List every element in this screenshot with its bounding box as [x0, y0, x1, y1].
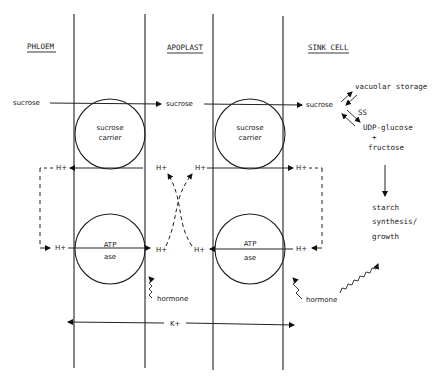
svg-text:ATP: ATP — [244, 240, 257, 248]
svg-text:carrier: carrier — [239, 134, 262, 142]
fructose-label: fructose — [368, 143, 405, 152]
svg-text:sucrose: sucrose — [97, 124, 124, 132]
potassium-transport: K+ — [68, 320, 294, 328]
hormone-signals: hormone hormone — [149, 264, 378, 304]
svg-text:ase: ase — [104, 253, 116, 261]
sucrose-phloem-label: sucrose — [13, 99, 40, 107]
svg-text:H+: H+ — [55, 244, 66, 252]
svg-text:carrier: carrier — [99, 134, 122, 142]
header-sink-cell: SINK CELL — [308, 43, 349, 52]
header-apoplast: APOPLAST — [167, 43, 204, 52]
proton-recycling-arrows — [166, 174, 192, 246]
svg-text:sucrose: sucrose — [237, 124, 264, 132]
sucrose-sink-label: sucrose — [306, 101, 333, 109]
svg-text:H+: H+ — [156, 246, 167, 254]
proton-atpase-level: H+ H+ H+ H+ — [55, 244, 307, 254]
phloem-unloading-diagram: PHLOEM APOPLAST SINK CELL sucrose carrie… — [0, 0, 441, 385]
hormone-right-label: hormone — [306, 296, 337, 304]
atpase-left: ATP ase — [75, 214, 145, 284]
svg-text:H+: H+ — [194, 246, 205, 254]
growth-label: growth — [372, 232, 399, 241]
potassium-label: K+ — [170, 320, 181, 328]
sucrose-carrier-right: sucrose carrier — [215, 99, 285, 169]
svg-text:H+: H+ — [195, 164, 206, 172]
svg-text:H+: H+ — [156, 164, 167, 172]
synthesis-label: synthesis/ — [372, 217, 417, 226]
sink-fate: vacuolar storage SS UDP-glucose + fructo… — [341, 82, 428, 241]
svg-text:H+: H+ — [56, 164, 67, 172]
ss-enzyme-label: SS — [358, 108, 368, 117]
vacuolar-storage-label: vacuolar storage — [355, 82, 428, 91]
starch-label: starch — [372, 203, 399, 212]
membranes — [74, 14, 283, 370]
svg-text:H+: H+ — [296, 164, 307, 172]
svg-text:H+: H+ — [296, 245, 307, 253]
svg-text:ase: ase — [244, 254, 256, 262]
sucrose-apoplast-label: sucrose — [166, 100, 193, 108]
udp-glucose-label: UDP-glucose — [363, 123, 413, 132]
sucrose-flow: sucrose sucrose sucrose — [13, 99, 333, 109]
header-phloem: PHLOEM — [27, 42, 55, 51]
compartment-headers: PHLOEM APOPLAST SINK CELL — [27, 42, 349, 53]
sucrose-carrier-left: sucrose carrier — [75, 99, 145, 169]
plus-label: + — [372, 133, 377, 142]
proton-carrier-level: H+ H+ H+ H+ — [40, 164, 322, 248]
hormone-left-label: hormone — [157, 295, 188, 303]
